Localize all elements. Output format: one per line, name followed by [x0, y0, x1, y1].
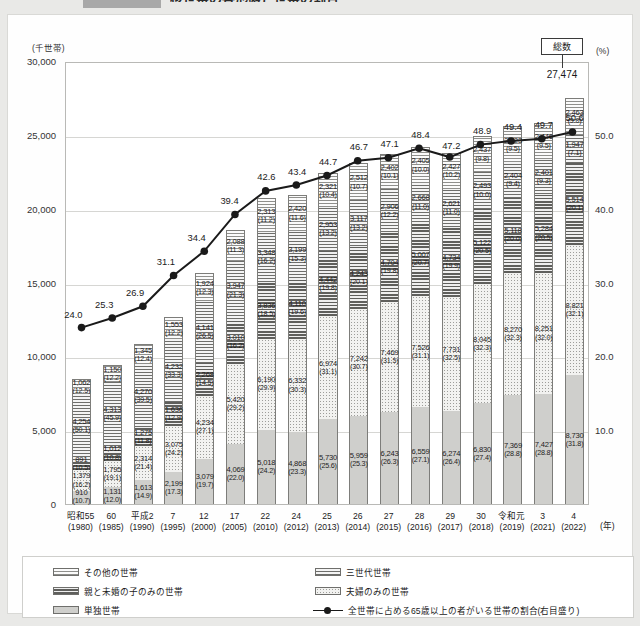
line-point-label: 46.7 — [350, 141, 368, 152]
legend-swatch-parent-icon — [53, 587, 79, 595]
legend-item-other: その他の世帯 — [53, 566, 138, 578]
legend-label-single: 単独世帯 — [84, 604, 120, 616]
line-point-label: 39.4 — [220, 195, 238, 206]
line-point-label: 47.2 — [442, 140, 460, 151]
line-point-label: 26.9 — [126, 287, 144, 298]
legend-swatch-couple-icon — [315, 587, 341, 595]
x-axis-label: 令和元(2019) — [498, 511, 525, 533]
total-callout-value: 27,474 — [547, 69, 578, 80]
line-data-point[interactable] — [170, 272, 178, 280]
line-point-label: 47.1 — [381, 138, 399, 149]
y-left-unit: (千世帯) — [32, 41, 65, 53]
y-axis-right-tick: 50.0 — [595, 130, 635, 141]
legend-item-three: 三世代世帯 — [315, 566, 391, 578]
y-axis-left-tick: 25,000 — [8, 130, 56, 141]
legend-item-single: 単独世帯 — [53, 604, 120, 616]
x-axis-label: 27(2015) — [376, 511, 401, 533]
line-data-point[interactable] — [415, 144, 423, 152]
line-data-point[interactable] — [231, 211, 239, 219]
x-axis-label: 30(2018) — [469, 511, 494, 533]
line-data-point[interactable] — [477, 141, 485, 149]
y-axis-right-tick: 30.0 — [595, 278, 635, 289]
y-right-unit: (%) — [596, 46, 609, 56]
y-axis-left-tick: 20,000 — [8, 204, 56, 215]
y-axis-right-tick: 10.0 — [595, 425, 635, 436]
x-axis-label: 3(2021) — [530, 511, 555, 533]
title-strip: 核世帯の各形態と世帯の割合 — [0, 0, 640, 14]
y-axis-left-tick: 10,000 — [8, 351, 56, 362]
legend-label-other: その他の世帯 — [84, 566, 138, 578]
line-point-label: 49.7 — [535, 119, 553, 130]
chart-card: (千世帯) (%) 1,062(12.5)4,254(50.1)891(10.5… — [7, 14, 633, 614]
x-axis-label: 29(2017) — [438, 511, 463, 533]
legend: その他の世帯 親と未婚の子のみの世帯 単独世帯 三世代世帯 夫婦のみの世帯 全世… — [22, 556, 634, 618]
x-axis-label: 24(2012) — [284, 511, 309, 533]
x-axis-label: 22(2010) — [253, 511, 278, 533]
line-data-point[interactable] — [354, 157, 362, 165]
x-axis-label: 28(2016) — [407, 511, 432, 533]
legend-label-parent: 親と未婚の子のみの世帯 — [84, 585, 183, 597]
x-axis-label: 昭和55(1980) — [67, 511, 95, 533]
line-data-point[interactable] — [262, 187, 270, 195]
y-axis-right-tick: 20.0 — [595, 351, 635, 362]
line-data-point[interactable] — [385, 154, 393, 162]
line-point-label: 44.7 — [319, 156, 337, 167]
line-data-point[interactable] — [446, 153, 454, 161]
x-axis-label: 26(2014) — [345, 511, 370, 533]
total-callout-leader — [562, 55, 563, 68]
line-point-label: 31.1 — [157, 256, 175, 267]
x-axis-label: 12(2000) — [191, 511, 216, 533]
legend-label-line: 全世帯に占める65歳以上の者がいる世帯の割合(右目盛り) — [348, 604, 579, 616]
line-data-point[interactable] — [108, 314, 116, 322]
line-point-label: 48.9 — [473, 125, 491, 136]
chart-page: 核世帯の各形態と世帯の割合 (千世帯) (%) 1,062(12.5)4,254… — [0, 0, 640, 626]
legend-line-marker-icon — [313, 606, 343, 614]
line-data-point[interactable] — [323, 172, 331, 180]
legend-item-line: 全世帯に占める65歳以上の者がいる世帯の割合(右目盛り) — [313, 604, 579, 616]
y-axis-left-tick: 15,000 — [8, 278, 56, 289]
line-point-label: 24.0 — [64, 309, 82, 320]
line-point-label: 43.4 — [288, 166, 306, 177]
line-point-label: 25.3 — [95, 299, 113, 310]
x-axis-label: 平成2(1990) — [130, 511, 155, 533]
line-data-point[interactable] — [293, 181, 301, 189]
line-data-point[interactable] — [569, 128, 577, 136]
line-point-label: 42.6 — [257, 171, 275, 182]
line-point-label: 48.4 — [411, 129, 429, 140]
line-point-label: 34.4 — [188, 232, 206, 243]
legend-swatch-three-icon — [315, 568, 341, 576]
page-title: 核世帯の各形態と世帯の割合 — [170, 0, 339, 2]
y-axis-left-tick: 5,000 — [8, 425, 56, 436]
line-data-point[interactable] — [139, 303, 147, 311]
x-axis-label: 25(2013) — [315, 511, 340, 533]
x-axis-label: 4(2022) — [561, 511, 586, 533]
legend-label-three: 三世代世帯 — [346, 566, 391, 578]
legend-item-parent: 親と未婚の子のみの世帯 — [53, 585, 183, 597]
legend-swatch-single-icon — [53, 606, 79, 614]
legend-item-couple: 夫婦のみの世帯 — [315, 585, 409, 597]
x-axis-label: 7(1995) — [160, 511, 185, 533]
plot-area: 1,062(12.5)4,254(50.1)891(10.5)1,379(16.… — [65, 62, 589, 505]
line-data-point[interactable] — [78, 324, 86, 332]
y-axis-left-tick: 30,000 — [8, 56, 56, 67]
x-axis-label: 17(2005) — [222, 511, 247, 533]
legend-label-couple: 夫婦のみの世帯 — [346, 585, 409, 597]
y-axis-right-tick: 40.0 — [595, 204, 635, 215]
legend-swatch-other-icon — [53, 568, 79, 576]
x-axis-unit: (年) — [600, 519, 615, 531]
line-data-point[interactable] — [538, 135, 546, 143]
title-tag-block — [83, 0, 161, 8]
line-point-label: 49.4 — [504, 121, 522, 132]
x-axis-label: 60(1985) — [99, 511, 124, 533]
line-data-point[interactable] — [507, 137, 515, 145]
line-data-point[interactable] — [200, 247, 208, 255]
y-axis-left-tick: 0 — [8, 499, 56, 510]
total-callout-box: 総数 — [541, 38, 583, 55]
line-point-label: 50.6 — [565, 112, 583, 123]
